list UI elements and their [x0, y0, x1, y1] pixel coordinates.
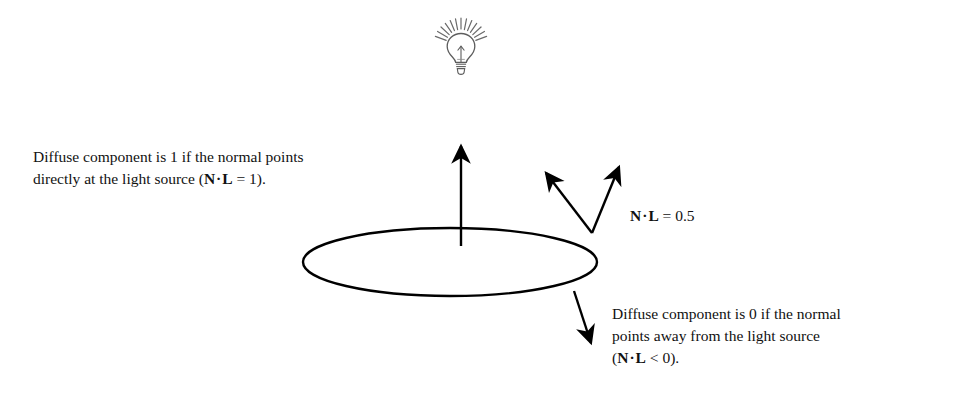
vector-l: L: [648, 207, 658, 224]
label-ndotl-line: N·L = 0.5: [630, 205, 695, 227]
vector-n: N: [630, 207, 641, 224]
note-left-line-1: Diffuse component is 1 if the normal poi…: [33, 146, 304, 168]
note-left-line-2: directly at the light source (N·L = 1).: [33, 168, 304, 190]
note-left-line2-suffix: = 1).: [233, 170, 266, 187]
label-n-dot-l-value: N·L = 0.5: [630, 205, 695, 227]
ellipse-surface: [303, 228, 597, 296]
note-right-line-1: Diffuse component is 0 if the normal: [612, 303, 841, 325]
normal-arrow-down: [574, 291, 591, 343]
dot-operator: ·: [628, 349, 635, 366]
note-right-line-3: (N·L < 0).: [612, 347, 841, 369]
vector-l: L: [222, 170, 232, 187]
note-right-line3-suffix: < 0).: [646, 349, 679, 366]
note-right-line-2: points away from the light source: [612, 325, 841, 347]
normal-arrow-right-tilted: [592, 167, 619, 233]
vector-l: L: [636, 349, 646, 366]
vector-n: N: [204, 170, 215, 187]
note-normal-away-from-light: Diffuse component is 0 if the normal poi…: [612, 303, 841, 369]
figure-canvas: Diffuse component is 1 if the normal poi…: [0, 0, 965, 404]
label-ndotl-value: = 0.5: [659, 207, 695, 224]
vector-n: N: [617, 349, 628, 366]
note-left-line2-prefix: directly at the light source (: [33, 170, 204, 187]
light-direction-arrow: [546, 173, 592, 233]
note-normal-toward-light: Diffuse component is 1 if the normal poi…: [33, 146, 304, 190]
